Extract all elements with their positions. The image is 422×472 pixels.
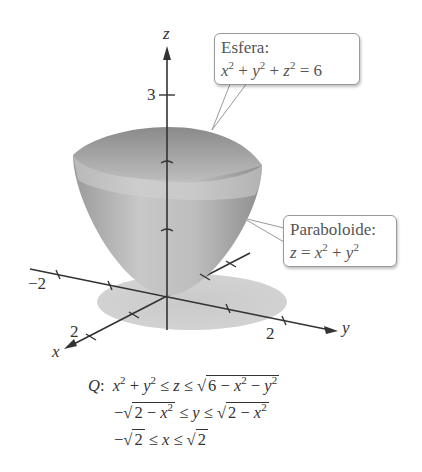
- paraboloid-callout: Paraboloide: z = x2 + y2: [283, 215, 397, 267]
- z-axis-arrow: [163, 46, 171, 60]
- sphere-callout: Esfera: x2 + y2 + z2 = 6: [214, 33, 360, 85]
- y-axis-arrow: [324, 326, 338, 334]
- sphere-equation: x2 + y2 + z2 = 6: [221, 59, 353, 82]
- sphere-callout-pointer: [212, 79, 250, 130]
- paraboloid-equation: z = x2 + y2: [290, 241, 390, 264]
- sphere-callout-title: Esfera:: [221, 36, 353, 59]
- region-description: Q: x2 + y2 ≤ z ≤ √6 − x2 − y2 −√2 − x2 ≤…: [88, 372, 279, 453]
- y-neg-tick-label: −2: [28, 274, 46, 294]
- x-tick-label: 2: [70, 322, 79, 342]
- z-axis-label: z: [163, 24, 170, 44]
- y-tick-label: 2: [266, 324, 275, 344]
- x-axis-label: x: [52, 342, 60, 362]
- z-tick-label-3: 3: [147, 85, 156, 105]
- y-axis-label: y: [342, 318, 350, 338]
- region-y-bounds: −√2 − x2 ≤ y ≤ √2 − x2: [88, 399, 279, 426]
- paraboloid-callout-title: Paraboloide:: [290, 218, 390, 241]
- paraboloid-callout-pointer: [243, 218, 284, 242]
- region-z-bounds: Q: x2 + y2 ≤ z ≤ √6 − x2 − y2: [88, 372, 279, 399]
- region-x-bounds: −√2 ≤ x ≤ √2: [88, 426, 279, 453]
